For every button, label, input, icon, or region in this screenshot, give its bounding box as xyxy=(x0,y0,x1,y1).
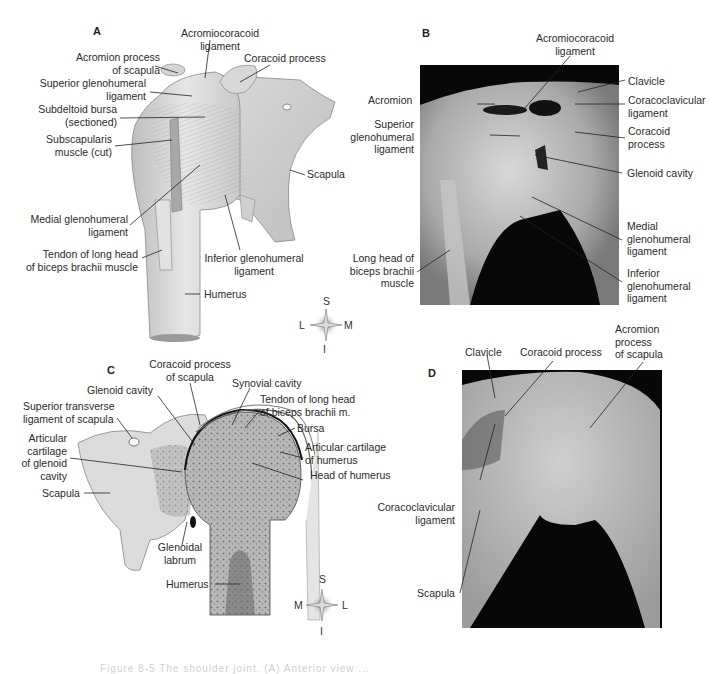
label-b-superior-glenohumeral-ligament: Superior glenohumeral ligament xyxy=(350,118,414,156)
label-b-long-head-biceps: Long head of biceps brachii muscle xyxy=(340,252,414,290)
compass-c-right: L xyxy=(342,599,348,611)
label-c-articular-cartilage-humerus: Articular cartilage of humerus xyxy=(305,441,386,466)
label-acromion-process: Acromion process of scapula xyxy=(50,51,160,76)
label-acromiocoracoid-ligament: Acromiocoracoid ligament xyxy=(170,27,270,52)
label-c-glenoidal-labrum: Glenoidal labrum xyxy=(150,541,210,566)
label-c-scapula: Scapula xyxy=(42,487,80,500)
compass-a-right: M xyxy=(344,319,353,331)
label-c-tendon-long-head: Tendon of long head of biceps brachii m. xyxy=(260,393,355,418)
label-d-acromion-process: Acromion process of scapula xyxy=(615,323,663,361)
label-c-synovial-cavity: Synovial cavity xyxy=(232,377,301,390)
label-b-acromion: Acromion xyxy=(368,94,412,107)
label-c-bursa: Bursa xyxy=(297,422,324,435)
compass-a-left: L xyxy=(299,319,305,331)
label-c-humerus: Humerus xyxy=(166,578,209,591)
label-b-inferior-glenohumeral-ligament: Inferior glenohumeral ligament xyxy=(627,267,691,305)
label-scapula-a: Scapula xyxy=(307,168,345,181)
label-d-clavicle: Clavicle xyxy=(465,346,502,359)
compass-c-left: M xyxy=(294,599,303,611)
label-b-acromiocoracoid-ligament: Acromiocoracoid ligament xyxy=(525,32,625,57)
label-humerus-a: Humerus xyxy=(204,288,247,301)
label-medial-glenohumeral-ligament: Medial glenohumeral ligament xyxy=(10,213,128,238)
label-superior-glenohumeral-ligament: Superior glenohumeral ligament xyxy=(20,77,146,102)
panel-letter-c: C xyxy=(107,364,115,376)
panel-b-photo xyxy=(417,56,625,305)
label-d-scapula: Scapula xyxy=(417,587,455,600)
figure-caption: Figure 8-5 The shoulder joint. (A) Anter… xyxy=(100,663,370,674)
label-c-superior-transverse-ligament: Superior transverse ligament of scapula xyxy=(23,400,115,425)
panel-d-photo xyxy=(460,355,662,628)
label-subscapularis-muscle: Subscapularis muscle (cut) xyxy=(20,133,112,158)
panel-letter-a: A xyxy=(93,25,101,37)
label-d-coracoclavicular-ligament: Coracoclavicular ligament xyxy=(370,501,455,526)
label-c-head-of-humerus: Head of humerus xyxy=(310,469,391,482)
label-b-coracoid-process: Coracoid process xyxy=(628,125,670,150)
label-b-coracoclavicular-ligament: Coracoclavicular ligament xyxy=(628,94,706,119)
label-c-articular-cartilage-glenoid: Articular cartilage of glenoid cavity xyxy=(10,432,67,482)
label-coracoid-process: Coracoid process xyxy=(244,52,326,65)
label-c-glenoid-cavity: Glenoid cavity xyxy=(87,384,153,397)
panel-letter-d: D xyxy=(428,367,436,379)
compass-a-top: S xyxy=(323,295,330,307)
compass-c-top: S xyxy=(319,573,326,585)
compass-rose-c: S I M L xyxy=(292,575,352,635)
label-subdeltoid-bursa: Subdeltoid bursa (sectioned) xyxy=(20,103,117,128)
compass-a-bottom: I xyxy=(323,343,326,355)
label-inferior-glenohumeral-ligament: Inferior glenohumeral ligament xyxy=(195,252,313,277)
label-c-coracoid-process: Coracoid process of scapula xyxy=(140,358,240,383)
compass-rose-a: S I L M xyxy=(296,295,356,355)
label-tendon-long-head-biceps: Tendon of long head of biceps brachii mu… xyxy=(10,248,138,273)
compass-c-bottom: I xyxy=(320,625,323,637)
label-b-glenoid-cavity: Glenoid cavity xyxy=(627,167,693,180)
label-d-coracoid-process: Coracoid process xyxy=(520,346,602,359)
label-b-clavicle: Clavicle xyxy=(628,75,665,88)
panel-letter-b: B xyxy=(422,27,430,39)
label-b-medial-glenohumeral-ligament: Medial glenohumeral ligament xyxy=(627,220,691,258)
